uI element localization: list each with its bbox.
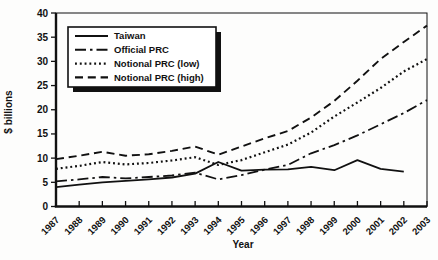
- y-tick-label: 15: [37, 128, 49, 139]
- series-line-official-prc: [56, 100, 427, 181]
- y-tick-label: 10: [37, 153, 49, 164]
- x-tick-label: 1996: [247, 214, 270, 237]
- x-tick-label: 1998: [294, 214, 317, 237]
- y-tick-label: 30: [37, 56, 49, 67]
- y-tick-label: 35: [37, 32, 49, 43]
- y-tick-label: 25: [37, 80, 49, 91]
- legend-label: Notional PRC (high): [114, 72, 204, 83]
- x-tick-label: 1993: [178, 214, 201, 237]
- chart-canvas: 0510152025303540198719881989199019911992…: [0, 0, 438, 260]
- defense-spending-line-chart: 0510152025303540198719881989199019911992…: [0, 0, 438, 260]
- legend-label: Notional PRC (low): [114, 58, 200, 69]
- x-tick-label: 1994: [201, 214, 224, 237]
- x-tick-label: 1999: [317, 214, 340, 237]
- y-tick-label: 0: [42, 201, 48, 212]
- series-line-taiwan: [56, 160, 404, 187]
- legend-label: Official PRC: [114, 44, 169, 55]
- x-tick-label: 1989: [85, 214, 108, 237]
- x-tick-label: 1990: [108, 214, 131, 237]
- x-tick-label: 2000: [340, 214, 363, 237]
- x-tick-label: 1991: [131, 214, 154, 237]
- y-axis-title: $ billions: [3, 90, 14, 134]
- x-tick-label: 2001: [363, 214, 386, 237]
- legend-label: Taiwan: [114, 30, 146, 41]
- y-tick-label: 40: [37, 8, 49, 19]
- y-tick-label: 20: [37, 104, 49, 115]
- y-tick-label: 5: [42, 177, 48, 188]
- x-tick-label: 1988: [62, 214, 85, 237]
- x-tick-label: 1995: [224, 214, 247, 237]
- x-tick-label: 1992: [155, 214, 178, 237]
- x-tick-label: 1987: [39, 214, 62, 237]
- x-axis-title: Year: [232, 239, 253, 250]
- x-tick-label: 2003: [410, 214, 433, 237]
- x-tick-label: 2002: [386, 214, 409, 237]
- x-tick-label: 1997: [271, 214, 294, 237]
